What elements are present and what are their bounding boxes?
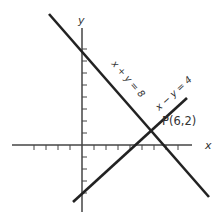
label-x-plus-y-eq-8: x + y = 8 [109, 57, 148, 99]
intersection-label: P(6,2) [162, 114, 196, 128]
x-axis-label: x [204, 139, 212, 152]
label-x-minus-y-eq-4: x − y = 4 [152, 74, 194, 113]
y-axis-label: y [77, 14, 85, 27]
line-x-plus-y-eq-8 [49, 14, 209, 197]
coordinate-diagram: y x x + y = 8 x − y = 4 P(6,2) [0, 0, 219, 220]
